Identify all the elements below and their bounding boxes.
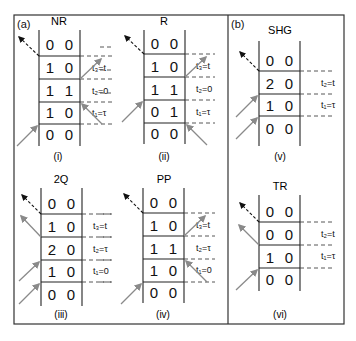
diagram-title: TR <box>273 180 288 192</box>
diagram-2q: 2Q 0 0 1 0 2 0 1 0 0 0 t₃=t t₂=τ t₁=0 <box>19 173 112 320</box>
ket-value: 1 <box>169 240 177 257</box>
ket-value: 1 <box>150 240 158 257</box>
time-label: t₂=t <box>321 78 335 88</box>
ket-value: 1 <box>46 59 54 76</box>
ket-value: 0 <box>67 263 75 280</box>
ket-value: 1 <box>48 218 56 235</box>
ket-value: 0 <box>65 36 73 53</box>
time-label: t₂=0 <box>92 86 108 96</box>
ket-value: 0 <box>170 58 178 75</box>
panel-b-label: (b) <box>231 18 244 30</box>
ket-value: 0 <box>266 226 274 243</box>
diagram-title: PP <box>157 173 172 185</box>
time-label: t₁=τ <box>321 100 336 110</box>
feynman-diagrams-figure: (a) (b) NR 0 0 1 0 1 1 1 0 0 0 t₃=t <box>0 0 356 341</box>
ket-value: 0 <box>67 286 75 303</box>
emitted-signal-arrow <box>22 195 41 214</box>
ket-value: 0 <box>150 194 158 211</box>
diagram-title: 2Q <box>54 173 69 185</box>
time-label: t₃=t <box>196 220 210 230</box>
emitted-signal-arrow <box>240 203 259 222</box>
ket-value: 0 <box>266 52 274 69</box>
diagram-tr: TR 0 0 0 0 1 0 0 0 t₂=t t₁=τ (vi) <box>236 180 336 320</box>
diagram-nr: NR 0 0 1 0 1 1 1 0 0 0 t₃=t t₂=0 t₁=τ <box>17 15 112 162</box>
ket-arrow <box>121 284 141 304</box>
ket-value: 0 <box>285 97 293 114</box>
diagram-sublabel: (iv) <box>156 309 170 320</box>
diagram-title: NR <box>51 15 67 27</box>
diagram-sublabel: (vi) <box>273 309 287 320</box>
ket-value: 2 <box>266 75 274 92</box>
ket-arrow <box>236 96 257 117</box>
time-label: t₂=τ <box>196 243 211 253</box>
ket-value: 0 <box>169 284 177 301</box>
diagram-sublabel: (iii) <box>54 309 67 320</box>
ket-value: 1 <box>170 103 178 120</box>
diagram-sublabel: (i) <box>54 151 63 162</box>
ket-value: 0 <box>170 35 178 52</box>
ket-value: 0 <box>65 104 73 121</box>
ket-value: 1 <box>266 249 274 266</box>
ket-value: 1 <box>266 97 274 114</box>
emitted-signal-arrow <box>240 52 259 71</box>
ket-value: 0 <box>266 120 274 137</box>
outer-frame <box>14 15 344 324</box>
ket-value: 0 <box>285 120 293 137</box>
ket-value: 0 <box>169 217 177 234</box>
ket-value: 0 <box>65 59 73 76</box>
ket-value: 0 <box>285 226 293 243</box>
ket-value: 0 <box>169 262 177 279</box>
diagram-sublabel: (ii) <box>158 151 169 162</box>
ket-arrow <box>236 270 257 290</box>
ket-value: 2 <box>48 241 56 258</box>
time-label: t₁=τ <box>196 107 211 117</box>
ket-value: 0 <box>266 271 274 288</box>
ket-value: 0 <box>67 195 75 212</box>
emitted-signal-arrow <box>125 36 144 54</box>
bra-arrow <box>187 125 207 145</box>
ket-value: 0 <box>285 52 293 69</box>
diagram-sublabel: (v) <box>274 151 286 162</box>
time-label: t₃=t <box>92 63 106 73</box>
ket-value: 0 <box>65 126 73 143</box>
ket-value: 0 <box>169 194 177 211</box>
emitted-signal-arrow <box>19 37 39 56</box>
ket-arrow <box>17 126 37 146</box>
time-label: t₁=τ <box>321 251 336 261</box>
ket-value: 0 <box>285 75 293 92</box>
ket-value: 0 <box>150 284 158 301</box>
diagram-pp: PP 0 0 1 0 1 1 1 0 0 0 <box>100 173 215 320</box>
ket-value: 1 <box>150 217 158 234</box>
ket-value: 0 <box>266 203 274 220</box>
ket-value: 0 <box>67 241 75 258</box>
ket-value: 0 <box>48 286 56 303</box>
ket-value: 1 <box>151 58 159 75</box>
ket-value: 1 <box>46 104 54 121</box>
time-label: t₂=τ <box>93 244 108 254</box>
time-label: t₂=0 <box>196 84 212 94</box>
ket-value: 0 <box>285 271 293 288</box>
diagram-title: SHG <box>268 24 292 36</box>
ket-value: 0 <box>285 203 293 220</box>
diagram-shg: SHG 0 0 2 0 1 0 0 0 t₂=t t₁=τ (v) <box>236 24 336 162</box>
time-label: t₁=0 <box>93 266 109 276</box>
ket-value: 0 <box>170 125 178 142</box>
emitted-signal-arrow <box>124 194 143 213</box>
time-label: t₃=t <box>93 221 107 231</box>
ket-value: 1 <box>46 82 54 99</box>
ket-value: 0 <box>46 36 54 53</box>
ket-value: 0 <box>151 103 159 120</box>
ket-value: 0 <box>46 126 54 143</box>
ket-value: 1 <box>170 81 178 98</box>
ket-value: 1 <box>48 263 56 280</box>
time-label: t₃=t <box>196 61 210 71</box>
ket-value: 1 <box>150 262 158 279</box>
time-label: t₂=t <box>321 229 335 239</box>
ket-arrow <box>19 284 39 304</box>
ket-value: 0 <box>151 35 159 52</box>
ket-value: 1 <box>151 81 159 98</box>
ket-value: 0 <box>48 195 56 212</box>
ket-value: 0 <box>67 218 75 235</box>
panel-a-label: (a) <box>17 18 30 30</box>
bra-arrow <box>21 216 41 237</box>
